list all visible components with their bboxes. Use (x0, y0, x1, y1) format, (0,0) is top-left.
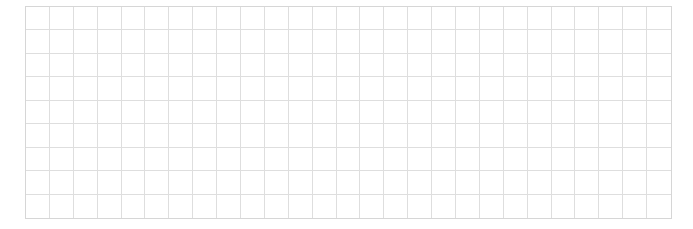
grid-cell (337, 30, 361, 53)
grid-cell (552, 30, 576, 53)
grid-cell (480, 77, 504, 100)
grid-cell (289, 124, 313, 147)
grid-cell (74, 124, 98, 147)
grid-cell (169, 171, 193, 194)
grid-cell (241, 195, 265, 218)
grid-cell (169, 124, 193, 147)
grid-cell (432, 148, 456, 171)
grid-cell (217, 124, 241, 147)
grid-cell (647, 101, 671, 124)
grid-cell (337, 54, 361, 77)
grid-cell (169, 30, 193, 53)
grid-cell (480, 171, 504, 194)
grid-cell (599, 54, 623, 77)
grid-cell (408, 171, 432, 194)
grid-cell (552, 148, 576, 171)
grid-cell (360, 101, 384, 124)
grid-cell (504, 54, 528, 77)
grid-cell (599, 124, 623, 147)
grid-cell (313, 54, 337, 77)
grid-cell (193, 54, 217, 77)
grid-cell (360, 195, 384, 218)
grid-cell (26, 54, 50, 77)
grid-cell (289, 195, 313, 218)
grid-cell (623, 195, 647, 218)
grid-cell (623, 124, 647, 147)
grid-cell (145, 30, 169, 53)
grid-cell (74, 30, 98, 53)
grid-cell (26, 30, 50, 53)
grid-cell (408, 195, 432, 218)
grid-cell (528, 101, 552, 124)
grid-cell (528, 171, 552, 194)
grid-cell (26, 7, 50, 30)
grid-cell (265, 195, 289, 218)
grid-cell (456, 101, 480, 124)
grid-cell (623, 171, 647, 194)
grid-cell (599, 77, 623, 100)
grid-cell (575, 171, 599, 194)
grid-cell (504, 77, 528, 100)
grid-cell (360, 7, 384, 30)
grid-cell (623, 77, 647, 100)
grid-cell (432, 54, 456, 77)
grid-cell (145, 171, 169, 194)
grid-cell (265, 77, 289, 100)
grid-cell (74, 54, 98, 77)
grid-cell (552, 77, 576, 100)
grid-cell (337, 7, 361, 30)
grid-cell (504, 148, 528, 171)
grid-cell (528, 7, 552, 30)
grid-cell (169, 101, 193, 124)
grid-cell (145, 101, 169, 124)
grid-cell (74, 101, 98, 124)
grid-cell (265, 54, 289, 77)
grid-cell (98, 7, 122, 30)
grid-cell (98, 30, 122, 53)
grid-cell (480, 195, 504, 218)
grid-cell (145, 54, 169, 77)
grid-cell (169, 7, 193, 30)
grid-cell (599, 148, 623, 171)
grid-cell (122, 30, 146, 53)
grid-cell (480, 148, 504, 171)
grid-cell (575, 30, 599, 53)
grid-cell (26, 77, 50, 100)
grid-cell (50, 148, 74, 171)
grid-cell (456, 54, 480, 77)
grid-cell (98, 77, 122, 100)
grid-cell (337, 77, 361, 100)
grid-cell (384, 30, 408, 53)
grid-cell (408, 101, 432, 124)
grid-cell (456, 7, 480, 30)
grid-cell (289, 54, 313, 77)
grid-cell (169, 195, 193, 218)
grid-cell (623, 30, 647, 53)
grid-cell (241, 124, 265, 147)
grid-cell (122, 148, 146, 171)
grid-cell (504, 195, 528, 218)
grid-cell (50, 30, 74, 53)
grid-cell (384, 54, 408, 77)
grid-cell (289, 77, 313, 100)
grid-cell (647, 195, 671, 218)
grid-cell (122, 101, 146, 124)
grid-cell (408, 77, 432, 100)
grid-cell (599, 7, 623, 30)
grid-cell (432, 195, 456, 218)
grid-cell (265, 101, 289, 124)
grid-cell (193, 124, 217, 147)
grid-cell (647, 124, 671, 147)
grid-cell (217, 54, 241, 77)
grid-cell (360, 54, 384, 77)
grid-cell (575, 7, 599, 30)
grid-cell (647, 148, 671, 171)
grid-cell (241, 77, 265, 100)
grid-cell (360, 124, 384, 147)
grid-cell (456, 195, 480, 218)
grid-cell (552, 195, 576, 218)
grid-cell (98, 124, 122, 147)
grid-cell (193, 148, 217, 171)
grid-cell (193, 101, 217, 124)
grid-cell (145, 148, 169, 171)
